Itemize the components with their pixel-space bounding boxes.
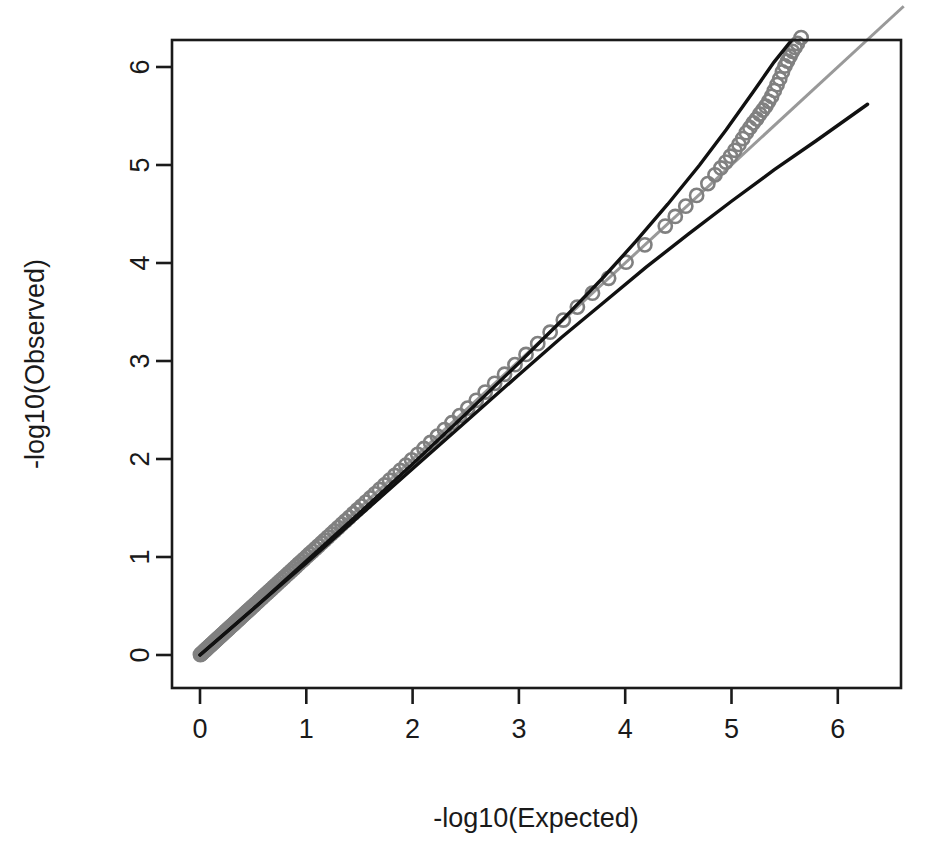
y-tick-label: 4 (125, 255, 155, 270)
x-axis-title: -log10(Expected) (433, 803, 639, 833)
x-tick-label: 2 (405, 714, 420, 744)
x-tick-label: 1 (299, 714, 314, 744)
y-tick-label: 5 (125, 157, 155, 172)
y-tick-label: 0 (125, 647, 155, 662)
x-tick-label: 0 (192, 714, 207, 744)
qq-plot-figure: 0123456 0123456 -log10(Expected) -log10(… (0, 0, 947, 860)
qq-plot-canvas: 0123456 0123456 -log10(Expected) -log10(… (0, 0, 947, 860)
y-tick-label: 3 (125, 353, 155, 368)
y-tick-label: 1 (125, 549, 155, 564)
y-tick-label: 6 (125, 59, 155, 74)
x-tick-label: 4 (618, 714, 633, 744)
x-tick-label: 5 (724, 714, 739, 744)
figure-background (0, 0, 947, 860)
y-tick-label: 2 (125, 451, 155, 466)
y-axis-title: -log10(Observed) (20, 259, 50, 469)
x-tick-label: 3 (511, 714, 526, 744)
x-tick-label: 6 (830, 714, 845, 744)
